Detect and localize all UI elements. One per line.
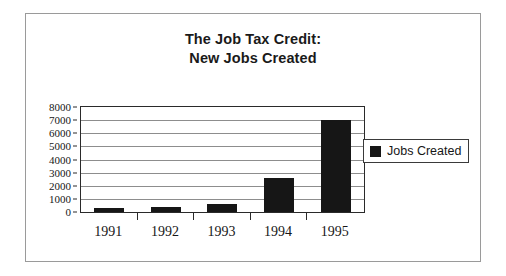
y-axis-tick-mark [73, 107, 77, 108]
y-axis-tick-label: 7000 [49, 114, 71, 126]
y-axis-tick-mark [73, 133, 77, 134]
bar-1993 [207, 204, 237, 212]
chart-title-line-2: New Jobs Created [26, 49, 480, 68]
y-axis: 800070006000500040003000200010000 [29, 107, 77, 212]
x-axis-label-1992: 1992 [151, 224, 179, 240]
x-axis-label-1991: 1991 [94, 224, 122, 240]
y-axis-tick-label: 0 [66, 206, 72, 218]
bar-slot [307, 107, 364, 212]
y-axis-tick-label: 4000 [49, 154, 71, 166]
chart-legend: Jobs Created [363, 139, 469, 163]
x-axis-label-1994: 1994 [264, 224, 292, 240]
bar-1995 [321, 120, 351, 212]
x-axis-labels: 19911992199319941995 [80, 224, 365, 246]
legend-label-jobs-created: Jobs Created [387, 144, 461, 158]
bar-1994 [264, 178, 294, 212]
y-axis-tick-mark [73, 146, 77, 147]
legend-swatch-jobs-created [370, 146, 381, 157]
y-axis-tick-label: 6000 [49, 127, 71, 139]
x-axis-tick-mark [193, 213, 194, 220]
y-axis-tick-mark [73, 120, 77, 121]
x-axis-label-1993: 1993 [208, 224, 236, 240]
y-axis-tick-label: 2000 [49, 180, 71, 192]
bar-series-jobs-created [81, 107, 364, 212]
bar-slot [138, 107, 195, 212]
y-axis-tick-mark [73, 212, 77, 213]
plot-area: 800070006000500040003000200010000 [80, 106, 365, 213]
chart-title: The Job Tax Credit: New Jobs Created [26, 30, 480, 68]
x-axis-ticks [80, 213, 365, 221]
x-axis-tick-mark [306, 213, 307, 220]
bar-slot [81, 107, 138, 212]
y-axis-tick-mark [73, 198, 77, 199]
x-axis-label-1995: 1995 [321, 224, 349, 240]
chart-figure: The Job Tax Credit: New Jobs Created 800… [25, 13, 481, 262]
x-axis-tick-mark [137, 213, 138, 220]
y-axis-tick-label: 5000 [49, 140, 71, 152]
chart-title-line-1: The Job Tax Credit: [26, 30, 480, 49]
y-axis-tick-mark [73, 159, 77, 160]
y-axis-tick-mark [73, 172, 77, 173]
bar-slot [194, 107, 251, 212]
bar-1991 [94, 208, 124, 212]
x-axis-tick-mark [250, 213, 251, 220]
y-axis-tick-label: 1000 [49, 193, 71, 205]
bar-slot [251, 107, 308, 212]
y-axis-tick-mark [73, 185, 77, 186]
y-axis-tick-label: 3000 [49, 167, 71, 179]
bar-1992 [151, 207, 181, 212]
y-axis-tick-label: 8000 [49, 101, 71, 113]
